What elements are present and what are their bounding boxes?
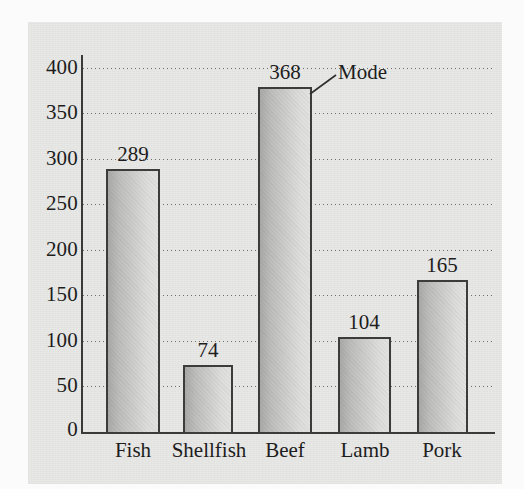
bar-shellfish[interactable] [183,365,233,434]
y-tick-label: 150 [6,284,78,305]
bar-value-pork: 165 [407,255,477,276]
y-tick-label: 250 [6,193,78,214]
x-tick-label-lamb: Lamb [329,440,401,461]
bar-value-fish: 289 [98,144,168,165]
bar-fish[interactable] [106,169,160,434]
y-tick-label: 200 [6,239,78,260]
x-tick-label-beef: Beef [250,440,320,461]
annotation-label-mode: Mode [338,62,387,83]
bar-chart: 400 350 300 250 200 150 100 50 0 289 [0,0,524,489]
y-tick-label: 50 [6,375,78,396]
y-axis-line [81,55,83,434]
y-tick-label: 400 [6,57,78,78]
y-tick-label: 300 [6,148,78,169]
x-tick-label-pork: Pork [407,440,477,461]
y-tick-label: 0 [6,419,78,440]
bar-value-beef: 368 [250,62,320,83]
bar-value-lamb: 104 [329,312,399,333]
y-tick-label: 100 [6,330,78,351]
y-tick-label: 350 [6,102,78,123]
x-tick-label-fish: Fish [98,440,168,461]
bar-beef[interactable] [258,87,312,434]
page-background: 400 350 300 250 200 150 100 50 0 289 [0,0,524,489]
bar-pork[interactable] [417,280,468,434]
bar-lamb[interactable] [338,337,391,434]
bar-value-shellfish: 74 [173,340,243,361]
x-tick-label-shellfish: Shellfish [163,440,255,461]
